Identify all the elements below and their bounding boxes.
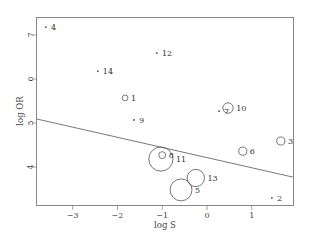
data-point: 11 — [149, 147, 186, 171]
data-point: 12 — [156, 49, 172, 58]
y-tick-label: 4 — [26, 164, 35, 169]
point-label: 12 — [162, 49, 172, 58]
point-marker — [159, 152, 166, 159]
y-tick-label: 7 — [26, 32, 35, 37]
data-point: 4 — [45, 23, 56, 32]
y-axis-label: log OR — [15, 96, 25, 126]
x-tick-label: −3 — [67, 211, 79, 220]
y-tick-label: 6 — [26, 76, 35, 81]
data-point: 14 — [97, 67, 113, 76]
x-axis-label: log S — [154, 220, 176, 230]
point-label: 7 — [224, 107, 229, 116]
point-label: 9 — [139, 116, 144, 125]
data-point: 2 — [271, 194, 282, 203]
point-marker — [277, 137, 285, 145]
data-point: 7 — [218, 107, 229, 116]
data-point: 6 — [239, 147, 255, 156]
point-label: 5 — [195, 186, 200, 195]
point-label: 3 — [288, 137, 293, 146]
y-axis-ticks: 4567 — [26, 32, 37, 169]
point-marker — [133, 119, 135, 121]
x-tick-label: 0 — [204, 211, 209, 220]
point-label: 14 — [103, 67, 113, 76]
x-tick-label: −2 — [112, 211, 124, 220]
y-tick-label: 5 — [26, 120, 35, 125]
data-point: 5 — [170, 179, 200, 201]
data-points: 4141219710638111352 — [45, 23, 293, 203]
point-marker — [97, 70, 99, 72]
x-tick-label: 1 — [249, 211, 254, 220]
data-point: 3 — [277, 137, 293, 146]
point-marker — [218, 110, 220, 112]
point-label: 6 — [250, 147, 255, 156]
point-label: 2 — [277, 194, 282, 203]
scatter-plot: 4567 −3−2−101 4141219710638111352 log S … — [0, 0, 309, 239]
data-point: 1 — [122, 94, 136, 103]
point-marker — [271, 197, 273, 199]
point-marker — [187, 169, 204, 186]
point-marker — [45, 26, 47, 28]
data-point: 8 — [159, 151, 174, 160]
plot-frame — [37, 18, 294, 206]
data-point: 13 — [187, 169, 217, 186]
point-marker — [156, 52, 158, 54]
point-marker — [170, 179, 192, 201]
point-label: 1 — [131, 94, 136, 103]
point-label: 11 — [176, 155, 186, 164]
x-tick-label: −1 — [156, 211, 168, 220]
point-label: 10 — [236, 104, 246, 113]
point-label: 13 — [207, 174, 217, 183]
point-label: 4 — [51, 23, 56, 32]
data-point: 9 — [133, 116, 144, 125]
point-marker — [122, 95, 128, 101]
x-axis-ticks: −3−2−101 — [67, 206, 254, 221]
point-marker — [239, 147, 247, 155]
